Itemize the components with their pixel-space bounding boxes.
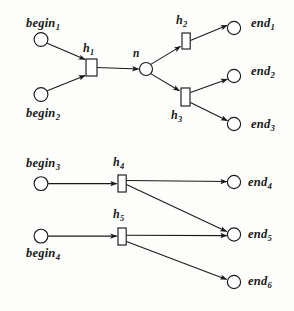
label-end4: end4 — [248, 176, 272, 189]
arc-begin2-h1 — [47, 75, 85, 90]
label-h2: h2 — [176, 14, 187, 26]
place-begin4 — [34, 229, 48, 243]
label-begin2: begin2 — [26, 107, 60, 120]
label-end1: end1 — [251, 17, 275, 30]
label-begin4: begin4 — [26, 247, 60, 260]
arc-h5-end6 — [126, 242, 226, 280]
arc-begin1-h1 — [47, 43, 85, 59]
label-end2: end2 — [251, 65, 275, 78]
place-end3 — [227, 117, 240, 130]
arc-h4-end5 — [126, 185, 226, 232]
arc-h2-end1 — [190, 25, 227, 40]
place-end5 — [227, 228, 240, 241]
arc-h1-n — [97, 68, 139, 70]
place-end1 — [227, 21, 240, 34]
arc-group — [47, 25, 227, 279]
place-end6 — [227, 275, 240, 288]
place-end2 — [227, 69, 240, 82]
transition-group — [86, 33, 190, 245]
place-n — [140, 63, 153, 76]
label-begin1: begin1 — [26, 17, 60, 30]
arc-h3-end3 — [190, 103, 227, 121]
label-end6: end6 — [248, 275, 272, 288]
arc-h3-end2 — [190, 79, 227, 92]
place-begin2 — [34, 88, 48, 102]
transition-h3 — [181, 88, 190, 106]
place-end4 — [227, 175, 240, 188]
label-h4: h4 — [113, 156, 124, 168]
place-begin1 — [34, 33, 48, 47]
label-end5: end5 — [248, 228, 272, 241]
arc-n-h3 — [151, 74, 180, 91]
hypergraph-diagram: begin1 begin2 begin3 begin4 end1 end2 en… — [0, 0, 294, 311]
label-end3: end3 — [251, 118, 275, 131]
place-begin3 — [34, 177, 48, 191]
transition-h4 — [118, 175, 126, 192]
arc-h4-end4 — [126, 181, 226, 182]
label-n: n — [133, 48, 139, 60]
transition-h5 — [118, 228, 126, 245]
label-begin3: begin3 — [26, 157, 60, 170]
arc-n-h2 — [151, 46, 181, 64]
transition-h1 — [86, 59, 97, 76]
label-h3: h3 — [171, 109, 182, 121]
label-h1: h1 — [83, 42, 94, 54]
label-h5: h5 — [113, 208, 124, 220]
transition-h2 — [182, 33, 190, 49]
place-group — [34, 21, 241, 288]
